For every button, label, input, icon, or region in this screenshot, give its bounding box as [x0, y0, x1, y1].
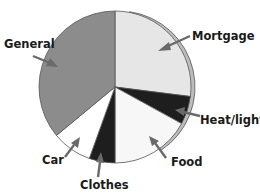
pie-slices — [39, 11, 195, 163]
label-clothes: Clothes — [80, 178, 129, 192]
label-mortgage: Mortgage — [192, 29, 255, 43]
label-general: General — [4, 37, 55, 51]
label-car: Car — [42, 153, 64, 167]
label-food: Food — [171, 155, 202, 169]
slice-mortgage — [115, 11, 191, 97]
label-heat-light: Heat/light — [200, 113, 260, 127]
pie-chart: Mortgage General Heat/light Food Car Clo… — [0, 0, 260, 194]
